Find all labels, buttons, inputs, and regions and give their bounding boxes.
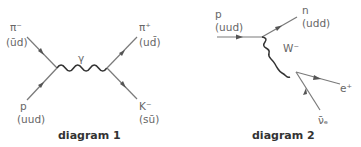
diagram-1: π⁻ (ūd) γ π⁺ (ud̄) p (uud) K⁻ (sū) diagr… [6, 21, 161, 142]
pi-plus-label: π⁺ [139, 21, 151, 33]
arrow-icon [275, 26, 282, 32]
caption-diagram-2: diagram 2 [252, 129, 315, 142]
photon-label: γ [78, 52, 84, 64]
arrow-icon [236, 35, 243, 40]
proton-quarks-2: (uud) [215, 21, 243, 33]
proton-quarks-1: (uud) [17, 113, 45, 125]
arrow-icon [313, 75, 321, 80]
pi-minus-quarks: (ūd) [6, 36, 28, 48]
positron-label: e⁺ [340, 82, 352, 94]
diagram-2: p (uud) n (udd) W⁻ e⁺ ν̄ₑ diagram 2 [215, 4, 352, 142]
proton-label-2: p [215, 8, 222, 20]
caption-diagram-1: diagram 1 [58, 129, 121, 142]
w-boson-label: W⁻ [283, 42, 299, 54]
feynman-diagrams: π⁻ (ūd) γ π⁺ (ud̄) p (uud) K⁻ (sū) diagr… [0, 0, 361, 147]
pi-minus-label: π⁻ [10, 21, 22, 33]
neutron-label: n [302, 4, 309, 16]
pi-plus-quarks: (ud̄) [139, 36, 161, 48]
neutron-quarks: (udd) [302, 17, 330, 29]
antineutrino-label: ν̄ₑ [318, 114, 328, 126]
kaon-minus-label: K⁻ [139, 100, 151, 112]
photon-propagator [57, 65, 107, 71]
kaon-minus-quarks: (sū) [139, 113, 159, 125]
proton-label-1: p [20, 100, 27, 112]
